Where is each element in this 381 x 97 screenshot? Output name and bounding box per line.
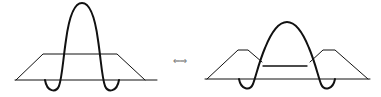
- left-wave-curve: [45, 3, 119, 90]
- transform-arrow-icon: ⇐⇒: [173, 56, 186, 66]
- right-trapezoid-left: [207, 50, 262, 79]
- left-figure: [15, 3, 157, 90]
- diagram-canvas: [0, 0, 381, 97]
- left-trapezoid: [16, 54, 145, 80]
- right-figure: [205, 22, 370, 88]
